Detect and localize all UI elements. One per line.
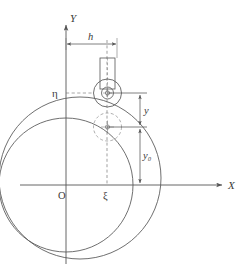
kinematics-diagram: Y X O h η ξ y y₀ — [0, 0, 243, 273]
x-axis-label: X — [227, 179, 236, 191]
origin-label: O — [58, 190, 66, 201]
y-dimension-label: y — [143, 105, 149, 116]
y-axis-label: Y — [70, 12, 78, 24]
y0-dimension-label: y₀ — [142, 150, 152, 161]
figure-canvas: Y X O h η ξ y y₀ — [0, 0, 243, 273]
displaced-circle — [0, 97, 161, 259]
h-label: h — [88, 31, 93, 42]
eta-label: η — [52, 87, 58, 99]
xi-label: ξ — [103, 190, 108, 202]
